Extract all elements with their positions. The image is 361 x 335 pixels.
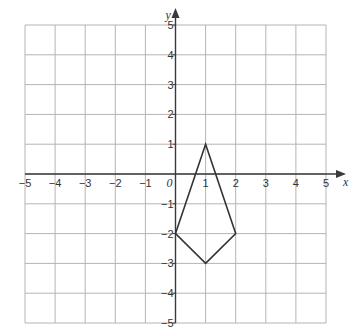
coordinate-grid-chart: xy −5−4−3−2−11234554321−1−2−3−4−50 [0, 0, 361, 335]
y-tick-label: −1 [161, 198, 174, 210]
y-axis-arrow-icon [172, 8, 180, 18]
y-tick-label: −4 [161, 287, 174, 299]
y-tick-label: −5 [161, 317, 174, 329]
x-tick-label: 3 [263, 177, 269, 189]
y-tick-label: −3 [161, 257, 174, 269]
x-axis-label: x [342, 175, 349, 189]
x-tick-label: 1 [203, 177, 209, 189]
origin-label: 0 [167, 176, 173, 190]
x-tick-label: −4 [49, 177, 62, 189]
x-tick-label: −2 [109, 177, 122, 189]
y-tick-label: −2 [161, 228, 174, 240]
x-tick-label: 5 [323, 177, 329, 189]
x-tick-label: 2 [233, 177, 239, 189]
x-tick-label: 4 [293, 177, 299, 189]
x-tick-label: −3 [79, 177, 92, 189]
x-tick-label: −5 [19, 177, 32, 189]
x-tick-label: −1 [139, 177, 152, 189]
